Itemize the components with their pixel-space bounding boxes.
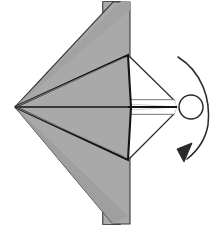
rotation-arrow-group [177,57,209,162]
rotation-axis-circle [179,95,203,119]
rotation-arrow-head [177,143,192,162]
origami-diagram-canvas: Origami paper-airplane fold step with ro… [0,0,220,235]
inner-nose-upper-panel [128,55,174,100]
rotation-arrow-curve [178,57,209,159]
inner-nose-lower-panel [128,114,174,160]
inner-nose-upper-sliver [129,100,177,107]
origami-diagram-figure: Origami paper-airplane fold step with ro… [0,0,220,235]
inner-nose-lower-sliver [129,107,177,114]
